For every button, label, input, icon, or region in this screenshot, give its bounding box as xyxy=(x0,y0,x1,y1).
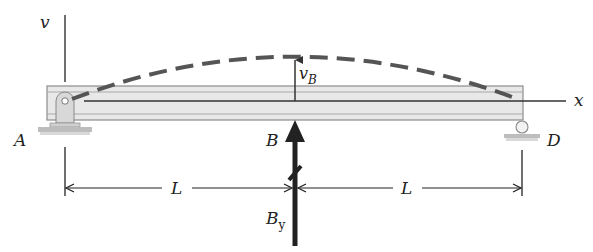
dimension-bd-label: L xyxy=(400,178,412,198)
beam-diagram: v x A D vB B xyxy=(0,0,593,252)
reaction-by-arrow: B By xyxy=(265,120,305,246)
beam xyxy=(47,86,523,120)
vb-label: v xyxy=(299,64,308,83)
point-d-label: D xyxy=(546,130,561,150)
v-axis: v xyxy=(40,12,65,82)
by-subscript: y xyxy=(278,218,286,232)
roller-support-d: D xyxy=(504,121,561,150)
vb-subscript: B xyxy=(307,73,317,87)
svg-text:By: By xyxy=(265,208,286,232)
svg-text:vB: vB xyxy=(299,64,317,87)
v-axis-label: v xyxy=(40,12,50,32)
point-b-label: B xyxy=(265,130,279,150)
point-a-label: A xyxy=(12,130,26,150)
by-label: B xyxy=(265,208,279,228)
dimension-ab-label: L xyxy=(170,178,182,198)
x-axis-label: x xyxy=(574,90,584,110)
